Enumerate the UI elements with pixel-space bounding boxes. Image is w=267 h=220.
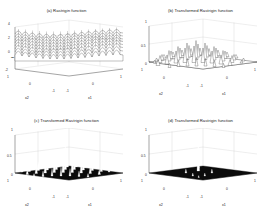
subplot-c-x2tick-0: -1: [52, 195, 55, 199]
subplot-d-x2tick-2: 1: [141, 179, 143, 183]
subplot-a-ytick-2: 2: [8, 36, 10, 40]
subplot-b-xtick-0: -1: [200, 84, 203, 88]
subplot-d-ytick-2: 1: [145, 128, 147, 132]
subplot-a-x2tick-1: 0: [29, 82, 31, 86]
subplot-b-xtick-1: 0: [226, 76, 228, 80]
subplot-a-ytick-0: -2: [5, 68, 8, 72]
subplot-a-xlabel: x1: [88, 96, 92, 100]
subplot-d-svg: [142, 128, 262, 212]
subplot-d: (d) Transformed Rastrigin function exp(-…: [134, 110, 267, 220]
subplot-c-plot: [8, 128, 128, 212]
subplot-a-ytick-1: 0: [8, 50, 10, 54]
subplot-a-ytick-3: 4: [8, 22, 10, 26]
subplot-b-x2tick-0: -1: [186, 84, 189, 88]
subplot-c-ytick-1: 0.5: [7, 154, 12, 158]
subplot-b-x2tick-2: 1: [141, 68, 143, 72]
subplot-d-ytick-1: 0.5: [141, 154, 146, 158]
subplot-b-x2label: x2: [159, 92, 163, 96]
subplot-c-x2label: x2: [25, 203, 29, 207]
subplot-a-xtick-2: 1: [120, 75, 122, 79]
subplot-a: (a) Rastrigin function f: [0, 0, 133, 110]
subplot-d-plot: [142, 128, 262, 212]
subplot-b-xtick-2: 1: [254, 68, 256, 72]
subplot-a-title: (a) Rastrigin function: [0, 8, 133, 13]
base-plane-d: [149, 166, 257, 180]
subplot-d-xlabel: x1: [222, 203, 226, 207]
subplot-c-svg: [8, 128, 128, 212]
subplot-a-xtick-0: -1: [66, 89, 69, 93]
subplot-d-x2tick-0: -1: [186, 195, 189, 199]
subplot-b-xlabel: x1: [222, 92, 226, 96]
subplot-b-ytick-2: 1: [145, 20, 147, 24]
subplot-c-x2tick-2: 1: [7, 179, 9, 183]
subplot-d-xtick-1: 0: [226, 187, 228, 191]
subplot-d-xtick-2: 1: [254, 179, 256, 183]
subplot-d-title: (d) Transformed Rastrigin function: [134, 118, 267, 123]
subplot-d-x2tick-1: 0: [163, 187, 165, 191]
subplot-b-svg: [142, 18, 262, 102]
subplot-b-ytick-0: 0: [145, 62, 147, 66]
subplot-c-xlabel: x1: [88, 203, 92, 207]
subplot-d-xtick-0: -1: [200, 195, 203, 199]
subplot-b-ytick-1: 0.5: [141, 44, 146, 48]
subplot-c-xtick-1: 0: [92, 187, 94, 191]
subplot-c: (c) Transformed Rastrigin function exp(-…: [0, 110, 133, 220]
figure-rastrigin-transforms: (a) Rastrigin function f: [0, 0, 267, 220]
subplot-d-ytick-0: 0: [145, 173, 147, 177]
subplot-b-title: (b) Transformed Rastrigin function: [134, 8, 267, 13]
subplot-a-x2label: x2: [25, 96, 29, 100]
subplot-b-x2tick-1: 0: [163, 76, 165, 80]
subplot-b-plot: [142, 18, 262, 102]
subplot-d-x2label: x2: [159, 203, 163, 207]
subplot-a-x2tick-0: -1: [52, 89, 55, 93]
subplot-b: (b) Transformed Rastrigin function exp(-…: [134, 0, 267, 110]
subplot-c-xtick-2: 1: [120, 179, 122, 183]
subplot-c-ytick-0: 0: [11, 173, 13, 177]
subplot-c-x2tick-1: 0: [29, 187, 31, 191]
subplot-a-xtick-1: 0: [92, 82, 94, 86]
subplot-c-ytick-2: 1: [11, 128, 13, 132]
subplot-c-title: (c) Transformed Rastrigin function: [0, 118, 133, 123]
subplot-a-x2tick-2: 1: [7, 75, 9, 79]
subplot-c-xtick-0: -1: [66, 195, 69, 199]
